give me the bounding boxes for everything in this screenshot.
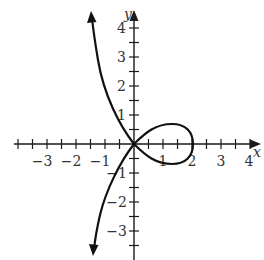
curve-lower-arrow-icon	[89, 244, 99, 256]
x-axis-label: x	[253, 144, 261, 160]
graph: −3 −2 −1 1 2 3 4 x 4 3 2 1 −1 −2 −3 y	[0, 0, 264, 260]
y-tick-label: −2	[106, 194, 127, 210]
y-tick-label: −3	[106, 223, 127, 239]
curve-upper-arrow-icon	[87, 11, 97, 23]
x-tick-label: −2	[61, 153, 82, 169]
curve-upper-branch	[92, 18, 134, 144]
x-tick-label: 3	[217, 153, 226, 169]
y-tick-label: 3	[117, 49, 126, 65]
y-axis-label: y	[123, 6, 133, 22]
x-tick-label: 2	[188, 153, 197, 169]
x-tick-label: −3	[32, 153, 53, 169]
x-tick-label: 1	[159, 153, 168, 169]
y-tick-label: 4	[117, 20, 126, 36]
y-tick-label: 2	[117, 78, 126, 94]
